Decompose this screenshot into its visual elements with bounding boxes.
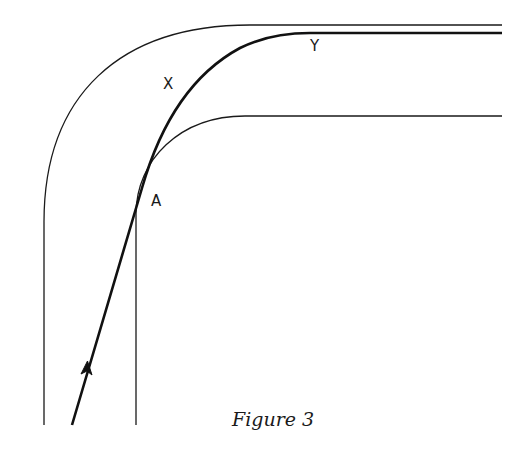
figure-caption: Figure 3 — [232, 410, 314, 429]
inner-track-edge — [136, 116, 502, 425]
outer-track-edge — [44, 25, 502, 425]
track-diagram — [0, 0, 532, 453]
label-a: A — [151, 194, 161, 209]
label-y: Y — [310, 39, 319, 54]
label-x: X — [163, 77, 173, 92]
